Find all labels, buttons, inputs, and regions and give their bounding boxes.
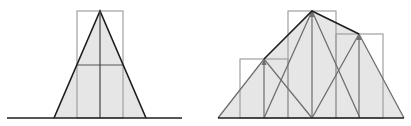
- diagram-canvas: [0, 0, 411, 126]
- kernel-density-diagram: [0, 0, 411, 126]
- panel-sum-of-kernels: [218, 11, 404, 118]
- density-area: [218, 11, 404, 118]
- panel-single-kernel: [7, 11, 182, 118]
